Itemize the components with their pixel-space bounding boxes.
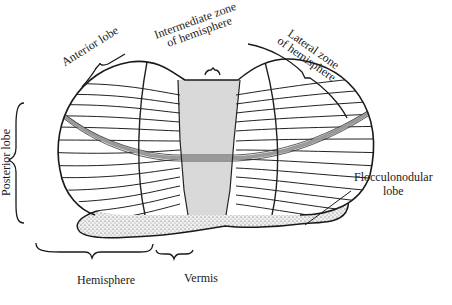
flocculonodular-label-line1: Flocculonodular xyxy=(354,170,433,184)
posterior-lobe-label: Posterior lobe xyxy=(0,129,13,196)
hemisphere-brace xyxy=(36,243,153,258)
hemisphere-label: Hemisphere xyxy=(77,274,135,287)
vermis-brace xyxy=(156,250,193,259)
cerebellum-illustration xyxy=(0,0,452,305)
intermediate-zone-brace xyxy=(205,68,220,75)
vermis-label: Vermis xyxy=(184,272,218,285)
flocculonodular-label-line2: lobe xyxy=(354,184,433,198)
flocculonodular-lobe-label: Flocculonodular lobe xyxy=(354,170,433,198)
